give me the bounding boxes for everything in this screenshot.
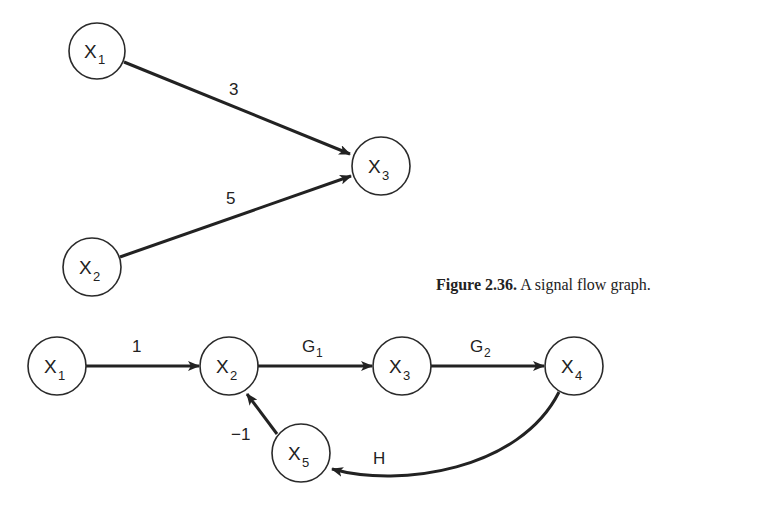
signal-flow-diagram: 3 5 X 1 X 2 X 3 1 G <box>0 0 769 518</box>
node-x1: X 1 <box>69 23 125 79</box>
svg-text:2: 2 <box>484 346 491 360</box>
gain-label: G <box>302 337 315 356</box>
svg-text:1: 1 <box>316 346 323 360</box>
gain-label: G <box>470 337 483 356</box>
edge-x2-x3: G 1 <box>258 337 372 366</box>
node-x4: X 4 <box>545 337 603 395</box>
node-x2: X 2 <box>63 238 121 296</box>
svg-text:X: X <box>216 356 229 377</box>
svg-text:X: X <box>84 41 97 62</box>
edge-x5-x2: −1 <box>231 394 277 444</box>
node-x3: X 3 <box>352 137 410 195</box>
svg-text:1: 1 <box>98 52 105 67</box>
node-x1: X 1 <box>28 337 86 395</box>
node-x5: X 5 <box>272 424 330 482</box>
edge-x3-x4: G 2 <box>431 337 544 366</box>
gain-label: −1 <box>231 425 250 444</box>
svg-text:X: X <box>561 356 574 377</box>
gain-label: 1 <box>132 337 141 356</box>
svg-text:3: 3 <box>382 168 389 183</box>
svg-text:X: X <box>79 257 92 278</box>
svg-text:X: X <box>389 356 402 377</box>
svg-text:4: 4 <box>575 368 582 383</box>
gain-label: H <box>373 449 385 468</box>
edge-x4-x5: H <box>332 392 559 476</box>
svg-text:5: 5 <box>302 455 309 470</box>
node-x2: X 2 <box>200 337 258 395</box>
svg-text:3: 3 <box>403 368 410 383</box>
svg-text:1: 1 <box>58 368 65 383</box>
feedback-graph: 1 G 1 G 2 H −1 X 1 X 2 <box>28 337 603 482</box>
figure-caption-text: A signal flow graph. <box>520 276 651 293</box>
svg-text:X: X <box>44 356 57 377</box>
svg-text:2: 2 <box>93 269 100 284</box>
edge-x2-x3: 5 <box>120 176 351 257</box>
gain-label: 3 <box>229 80 238 99</box>
summing-graph: 3 5 X 1 X 2 X 3 <box>63 23 410 296</box>
node-x3: X 3 <box>373 337 431 395</box>
figure-number: Figure 2.36. <box>436 276 517 293</box>
gain-label: 5 <box>226 189 235 208</box>
svg-text:X: X <box>368 156 381 177</box>
figure-caption: Figure 2.36. A signal flow graph. <box>436 276 651 294</box>
edge-x1-x3: 3 <box>124 62 350 154</box>
edge-x1-x2: 1 <box>86 337 199 366</box>
svg-text:X: X <box>288 443 301 464</box>
svg-text:2: 2 <box>230 368 237 383</box>
